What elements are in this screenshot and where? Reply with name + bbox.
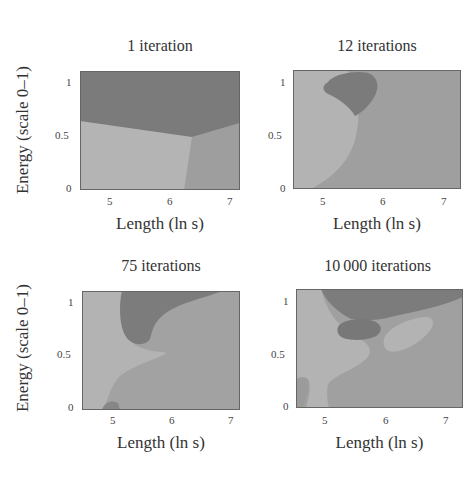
y-tick: 0.5 bbox=[55, 129, 69, 141]
panel-title: 75 iterations bbox=[82, 257, 240, 275]
x-axis-label: Length (ln s) bbox=[296, 433, 463, 453]
x-tick: 7 bbox=[443, 414, 449, 426]
x-tick: 6 bbox=[169, 414, 175, 426]
x-tick: 5 bbox=[322, 414, 328, 426]
panel-title: 12 iterations bbox=[293, 37, 461, 55]
heatmap-plot bbox=[82, 291, 240, 410]
x-tick: 6 bbox=[167, 195, 173, 207]
y-tick: 1 bbox=[66, 76, 72, 88]
x-tick: 7 bbox=[227, 195, 233, 207]
y-tick: 0.5 bbox=[268, 129, 282, 141]
x-tick: 7 bbox=[228, 414, 234, 426]
x-tick: 7 bbox=[441, 195, 447, 207]
y-tick: 0 bbox=[68, 401, 74, 413]
y-axis-label-top: Energy (scale 0–1) bbox=[13, 55, 33, 205]
y-axis-label-bottom: Energy (scale 0–1) bbox=[13, 273, 33, 423]
panel-title: 1 iteration bbox=[80, 37, 240, 55]
y-tick: 1 bbox=[283, 295, 289, 307]
x-axis-label: Length (ln s) bbox=[82, 433, 240, 453]
heatmap-plot bbox=[296, 289, 463, 408]
x-tick: 6 bbox=[380, 195, 386, 207]
y-tick: 1 bbox=[68, 296, 74, 308]
x-tick: 5 bbox=[110, 414, 116, 426]
x-tick: 6 bbox=[383, 414, 389, 426]
y-tick: 0 bbox=[280, 182, 286, 194]
x-axis-label: Length (ln s) bbox=[293, 214, 461, 234]
x-tick: 5 bbox=[320, 195, 326, 207]
heatmap-plot bbox=[80, 71, 240, 190]
y-tick: 0.5 bbox=[57, 348, 71, 360]
y-tick: 0 bbox=[66, 182, 72, 194]
y-tick: 1 bbox=[280, 76, 286, 88]
y-tick: 0.5 bbox=[271, 348, 285, 360]
panel-title: 10 000 iterations bbox=[290, 257, 465, 275]
x-axis-label: Length (ln s) bbox=[80, 214, 240, 234]
heatmap-plot bbox=[293, 70, 461, 189]
y-tick: 0 bbox=[283, 400, 289, 412]
x-tick: 5 bbox=[107, 195, 113, 207]
